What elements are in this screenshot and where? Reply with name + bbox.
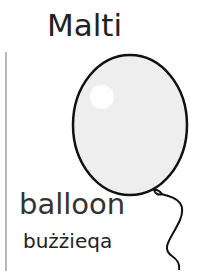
english-word: balloon [19,190,125,219]
maltese-word: bużżieqa [23,231,112,251]
